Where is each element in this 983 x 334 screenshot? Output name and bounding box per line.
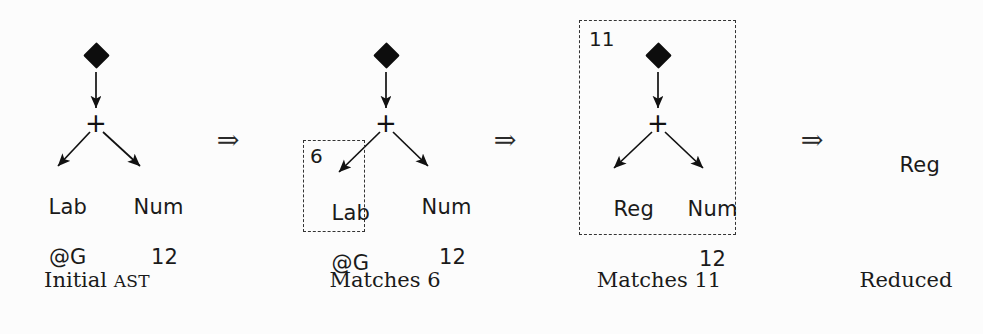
left-child-label-panel-3: Reg bbox=[586, 172, 648, 247]
caption-panel-1: Initial AST bbox=[26, 268, 168, 293]
left-child-line2-panel-1: @G bbox=[49, 245, 87, 269]
match-tag-panel-2: 6 bbox=[310, 145, 323, 167]
result-node-label-panel-4: Reg bbox=[866, 128, 946, 203]
operator-node-panel-1: + bbox=[80, 110, 112, 136]
root-diamond-node-panel-2 bbox=[373, 42, 400, 69]
match-tag-panel-3: 11 bbox=[589, 28, 614, 50]
caption-text-panel-3: Matches 11 bbox=[597, 268, 721, 292]
right-child-line1-panel-1: Num bbox=[134, 195, 184, 219]
caption-text-panel-1: Initial bbox=[44, 268, 114, 292]
right-child-line2-panel-2: 12 bbox=[439, 245, 466, 269]
operator-node-panel-3: + bbox=[642, 110, 674, 136]
caption-panel-3: Matches 11 bbox=[585, 268, 733, 293]
right-child-line1-panel-3: Num bbox=[688, 197, 738, 221]
ast-reduction-figure: + Lab @G Num 12 Initial AST ⇒ 6 + Lab @G… bbox=[0, 0, 983, 334]
right-child-line1-panel-2: Num bbox=[422, 195, 472, 219]
result-node-text-panel-4: Reg bbox=[900, 153, 941, 177]
root-diamond-node-panel-1 bbox=[83, 42, 110, 69]
caption-panel-4: Reduced bbox=[845, 268, 967, 293]
transition-arrow-2: ⇒ bbox=[483, 126, 527, 153]
caption-smallcaps-panel-1: AST bbox=[114, 271, 150, 291]
operator-node-panel-2: + bbox=[370, 110, 402, 136]
transition-arrow-3: ⇒ bbox=[790, 126, 834, 153]
left-child-line1-panel-2: Lab bbox=[332, 201, 371, 225]
caption-text-panel-2: Matches 6 bbox=[330, 268, 441, 292]
caption-text-panel-4: Reduced bbox=[860, 268, 953, 292]
caption-panel-2: Matches 6 bbox=[313, 268, 457, 293]
left-child-line1-panel-1: Lab bbox=[49, 195, 88, 219]
left-child-line1-panel-3: Reg bbox=[614, 197, 655, 221]
transition-arrow-1: ⇒ bbox=[206, 126, 250, 153]
right-child-line2-panel-1: 12 bbox=[151, 245, 178, 269]
